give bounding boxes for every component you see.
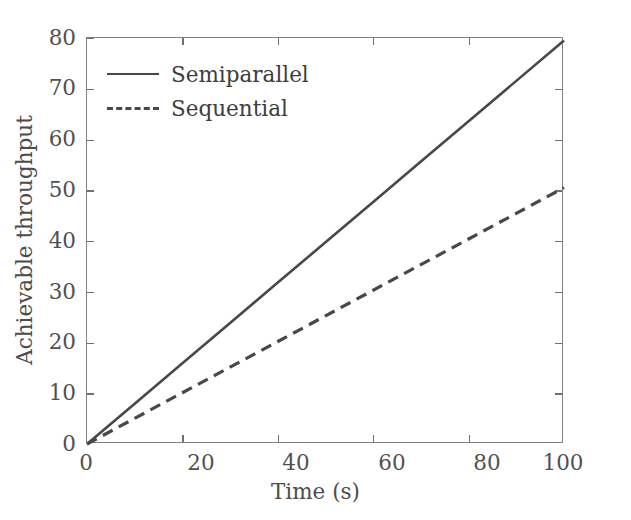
x-tick-label: 0 <box>56 452 116 474</box>
x-tick-label: 20 <box>171 452 231 474</box>
plot-area: Semiparallel Sequential <box>86 37 563 443</box>
y-axis-title: Achievable throughput <box>12 37 37 443</box>
chart-legend: Semiparallel Sequential <box>107 57 309 125</box>
legend-entry-sequential: Sequential <box>107 91 309 125</box>
legend-label: Semiparallel <box>171 62 309 87</box>
x-tick-label: 40 <box>266 452 326 474</box>
legend-swatch-solid <box>107 67 159 81</box>
x-tick-label: 100 <box>533 452 593 474</box>
legend-swatch-dashed <box>107 101 159 115</box>
x-tick-label: 80 <box>457 452 517 474</box>
legend-label: Sequential <box>171 96 288 121</box>
x-axis-title: Time (s) <box>0 479 631 504</box>
x-tick-label: 60 <box>362 452 422 474</box>
chart-figure: 80 70 60 50 40 30 20 10 0 0 20 40 60 80 … <box>0 0 631 520</box>
series-line-sequential <box>87 188 564 444</box>
legend-entry-semiparallel: Semiparallel <box>107 57 309 91</box>
